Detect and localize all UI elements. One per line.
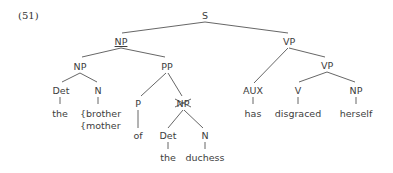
branch-np-np — [82, 48, 121, 57]
word-the-2: the — [160, 152, 176, 163]
node-det1: Det — [53, 85, 70, 96]
branch-np-pp — [121, 48, 165, 57]
word-brother: {brother — [80, 108, 121, 119]
branch-s-np — [122, 22, 205, 33]
word-duchess: duchess — [185, 152, 224, 163]
branch-vp2-v — [299, 72, 327, 82]
node-obj-np: NP — [350, 85, 363, 96]
node-v: V — [295, 85, 302, 96]
branch-pp-np — [168, 73, 182, 96]
node-s: S — [202, 10, 208, 21]
branch-np-det — [62, 73, 80, 82]
node-inner-np: NP — [74, 61, 87, 72]
branch-np2-det — [168, 110, 183, 128]
node-subject-np: NP — [115, 36, 128, 47]
branch-vp-aux — [254, 48, 288, 83]
node-n1: N — [94, 85, 101, 96]
node-pp-np-struck: NP — [177, 98, 190, 109]
node-n2: N — [201, 130, 208, 141]
branch-vp-vp — [289, 48, 325, 57]
word-has: has — [245, 108, 262, 119]
branch-s-vp — [205, 22, 288, 33]
word-the-1: the — [52, 108, 68, 119]
branch-np2-n — [184, 110, 203, 128]
branch-pp-p — [141, 73, 166, 96]
node-det2: Det — [160, 130, 177, 141]
branch-vp2-np — [327, 72, 355, 82]
node-pp: PP — [161, 61, 172, 72]
word-herself: herself — [340, 108, 373, 119]
word-disgraced: disgraced — [275, 108, 321, 119]
example-number: (51) — [18, 10, 39, 21]
node-p: P — [135, 98, 141, 109]
node-aux: AUX — [243, 85, 263, 96]
branch-np-n — [80, 73, 97, 82]
node-vp-top: VP — [283, 36, 295, 47]
word-of: of — [133, 130, 142, 141]
node-vp-lower: VP — [321, 60, 333, 71]
word-mother: {mother — [80, 120, 121, 131]
